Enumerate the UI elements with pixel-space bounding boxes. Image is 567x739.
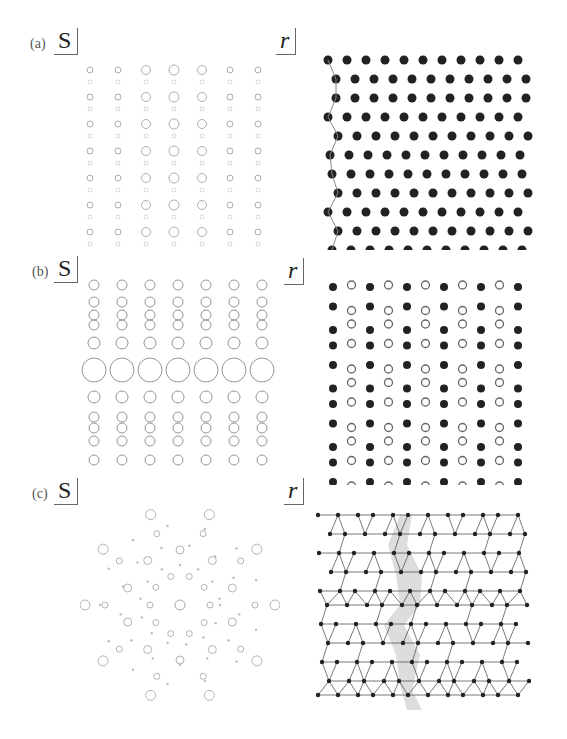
panel-a-real-symbol: r (276, 28, 296, 55)
panel-a-lattice (320, 50, 540, 250)
panel-c-diffraction (80, 505, 280, 705)
panel-a-reciprocal-symbol: S (54, 28, 78, 55)
panel-b-diffraction (78, 275, 288, 475)
panel-b-reciprocal-symbol: S (54, 256, 78, 283)
panel-c-real-symbol: r (284, 478, 304, 505)
panel-c-tiling (312, 505, 532, 710)
panel-c-reciprocal-symbol: S (54, 478, 78, 505)
panel-a-diffraction (80, 58, 280, 248)
panel-b-label: (b) (32, 264, 48, 280)
panel-b-lattice (325, 275, 535, 485)
panel-a-label: (a) (30, 36, 46, 52)
panel-c-label: (c) (32, 486, 48, 502)
